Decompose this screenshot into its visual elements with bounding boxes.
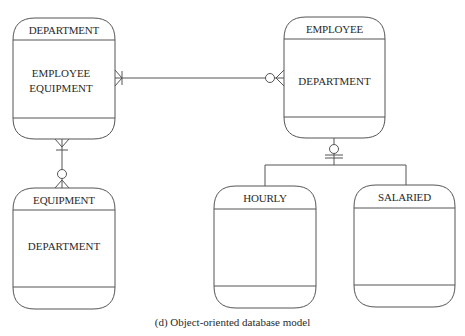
entity-attribute: DEPARTMENT	[13, 239, 115, 254]
department-equipment-relationship	[55, 139, 69, 188]
entity-attribute: EQUIPMENT	[7, 81, 115, 96]
entity-title: DEPARTMENT	[13, 24, 115, 36]
entity-title: HOURLY	[214, 192, 316, 204]
entity-attributes: DEPARTMENT	[13, 239, 115, 254]
employee-subtype-relationship	[265, 138, 406, 186]
employee-entity: EMPLOYEE DEPARTMENT	[284, 17, 385, 138]
entity-attribute: DEPARTMENT	[284, 74, 385, 89]
figure-caption: (d) Object-oriented database model	[0, 316, 465, 328]
department-employee-relationship	[115, 70, 284, 86]
department-entity: DEPARTMENT EMPLOYEE EQUIPMENT	[13, 18, 115, 139]
entity-attribute: EMPLOYEE	[7, 66, 115, 81]
hourly-entity: HOURLY	[214, 186, 316, 308]
entity-attributes: EMPLOYEE EQUIPMENT	[7, 66, 115, 96]
entity-title: EMPLOYEE	[284, 23, 385, 35]
equipment-entity: EQUIPMENT DEPARTMENT	[13, 188, 115, 309]
entity-title: EQUIPMENT	[13, 194, 115, 206]
entity-attributes: DEPARTMENT	[284, 74, 385, 89]
entity-title: SALARIED	[354, 191, 455, 203]
salaried-entity: SALARIED	[354, 185, 455, 307]
